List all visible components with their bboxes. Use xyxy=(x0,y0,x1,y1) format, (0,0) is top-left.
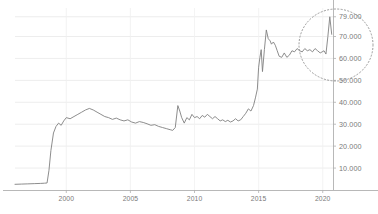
recent-spike-highlight-ellipse xyxy=(299,9,373,81)
chart-container: 10.00020.00030.00040.00050.00060.00070.0… xyxy=(0,0,378,214)
axis-lines-group xyxy=(3,0,378,191)
y-tick-label: 20.000 xyxy=(339,143,362,150)
y-tick-label: 50.000 xyxy=(339,77,362,84)
chart-plot-area xyxy=(0,0,378,214)
y-tick-label: 10.000 xyxy=(339,165,362,172)
y-tick-label: 60.000 xyxy=(339,55,362,62)
gridlines-group xyxy=(15,8,333,190)
x-tick-label: 2005 xyxy=(123,196,139,203)
x-tick-label: 2000 xyxy=(59,196,75,203)
x-tick-label: 2015 xyxy=(251,196,267,203)
data-series-line xyxy=(15,17,332,185)
y-tick-label: 70.000 xyxy=(339,33,362,40)
y-tick-label: 79.000 xyxy=(339,13,362,20)
x-tick-label: 2020 xyxy=(315,196,331,203)
y-tick-label: 30.000 xyxy=(339,121,362,128)
x-tick-label: 2010 xyxy=(187,196,203,203)
y-tick-label: 40.000 xyxy=(339,99,362,106)
